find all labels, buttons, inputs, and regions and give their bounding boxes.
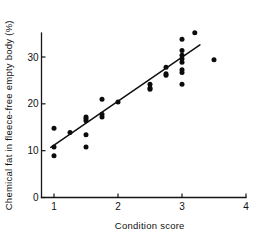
data-point bbox=[192, 30, 197, 35]
y-tick-label: 20 bbox=[27, 98, 39, 109]
data-point bbox=[180, 37, 185, 42]
y-tick-label: 30 bbox=[27, 52, 39, 63]
x-tick-label: 3 bbox=[179, 201, 185, 212]
x-axis-ticks: 1234 bbox=[51, 194, 249, 212]
data-point bbox=[148, 87, 153, 92]
regression-line bbox=[51, 45, 200, 148]
data-point bbox=[180, 48, 185, 53]
x-tick-label: 4 bbox=[243, 201, 249, 212]
data-point bbox=[180, 70, 185, 75]
axes-group bbox=[42, 33, 247, 198]
chart-canvas: 0102030 1234 Condition score Chemical fa… bbox=[0, 0, 260, 246]
data-point bbox=[180, 82, 185, 87]
y-axis-ticks: 0102030 bbox=[27, 52, 45, 204]
data-points-layer bbox=[52, 30, 217, 158]
data-point bbox=[164, 73, 169, 78]
data-point bbox=[84, 132, 89, 137]
y-tick-label: 10 bbox=[27, 145, 39, 156]
x-tick-label: 2 bbox=[115, 201, 121, 212]
data-point bbox=[100, 97, 105, 102]
data-point bbox=[52, 153, 57, 158]
x-axis-title: Condition score bbox=[115, 220, 185, 231]
y-axis-title: Chemical fat in fleece-free empty body (… bbox=[3, 20, 14, 210]
data-point bbox=[180, 60, 185, 65]
y-tick-label: 0 bbox=[33, 192, 39, 203]
data-point bbox=[52, 126, 57, 131]
x-tick-label: 1 bbox=[51, 201, 57, 212]
scatter-plot-figure: 0102030 1234 Condition score Chemical fa… bbox=[0, 0, 260, 246]
data-point bbox=[212, 57, 217, 62]
data-point bbox=[84, 144, 89, 149]
data-point bbox=[100, 114, 105, 119]
